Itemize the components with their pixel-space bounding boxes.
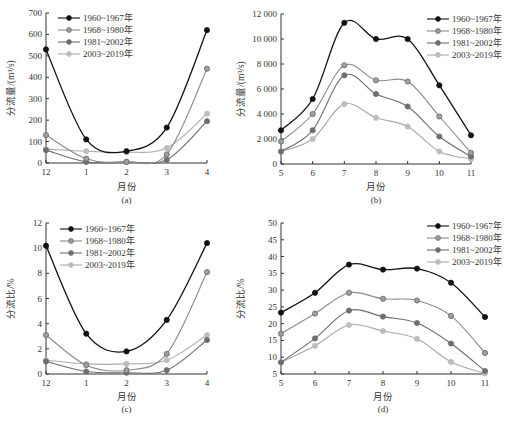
y-tick-label: 15 (268, 335, 278, 345)
y-tick-label: 35 (268, 268, 278, 278)
data-point-marker (380, 296, 385, 301)
legend-label: 1968~1980年 (452, 232, 502, 243)
data-point-marker (84, 156, 89, 161)
data-point-marker (204, 28, 209, 33)
x-axis-label: 月份 (117, 391, 137, 402)
data-point-marker (204, 119, 209, 124)
data-point-marker (84, 363, 89, 368)
data-point-marker (310, 136, 315, 141)
data-point-marker (373, 78, 378, 83)
legend-marker (436, 260, 441, 265)
y-tick-label: 8 000 (257, 59, 278, 69)
data-point-marker (414, 266, 419, 271)
legend-marker (67, 52, 72, 57)
data-point-marker (164, 145, 169, 150)
figure-canvas: 0100200300400500600700121234月份分流量/(m³/s)… (0, 0, 512, 430)
data-point-marker (43, 359, 48, 364)
data-point-marker (437, 134, 442, 139)
legend-marker (69, 227, 74, 232)
data-point-marker (448, 341, 453, 346)
y-tick-label: 6 000 (257, 84, 278, 94)
x-tick-label: 1 (84, 378, 89, 388)
data-point-marker (437, 114, 442, 119)
data-point-marker (204, 332, 209, 337)
data-point-marker (204, 337, 209, 342)
y-axis-label: 分流比/% (235, 278, 246, 319)
data-point-marker (124, 361, 129, 366)
y-tick-label: 5 (273, 369, 278, 379)
y-tick-label: 600 (29, 29, 43, 39)
data-point-marker (342, 101, 347, 106)
y-tick-label: 400 (29, 72, 43, 82)
x-tick-label: 12 (42, 378, 51, 388)
data-point-marker (278, 310, 283, 315)
legend-marker (436, 236, 441, 241)
data-point-marker (346, 322, 351, 327)
legend-label: 2003~2019年 (85, 259, 135, 270)
y-tick-label: 20 (268, 319, 278, 329)
data-point-marker (380, 267, 385, 272)
x-tick-label: 6 (313, 378, 318, 388)
x-tick-label: 5 (279, 168, 284, 178)
y-tick-label: 10 (268, 352, 278, 362)
panel-subtitle: (c) (122, 404, 132, 414)
x-tick-label: 2 (124, 167, 129, 177)
data-point-marker (312, 343, 317, 348)
x-axis-label: 月份 (373, 391, 393, 402)
data-point-marker (43, 133, 48, 138)
x-tick-label: 3 (165, 378, 170, 388)
series-line (46, 121, 207, 163)
x-tick-label: 2 (124, 378, 129, 388)
data-point-marker (84, 149, 89, 154)
y-tick-label: 12 000 (252, 9, 277, 19)
y-tick-label: 500 (29, 51, 43, 61)
legend-label: 1981~2002年 (452, 244, 502, 255)
data-point-marker (373, 115, 378, 120)
x-tick-label: 4 (205, 167, 210, 177)
y-axis-label: 分流量/(m³/s) (5, 60, 17, 116)
legend-label: 1960~1967年 (85, 223, 135, 234)
x-tick-label: 8 (374, 168, 379, 178)
y-tick-label: 100 (29, 137, 43, 147)
data-point-marker (405, 79, 410, 84)
data-point-marker (373, 91, 378, 96)
legend-label: 1981~2002年 (85, 247, 135, 258)
data-point-marker (342, 73, 347, 78)
y-axis-label: 分流比/% (5, 278, 16, 319)
x-axis-label: 月份 (117, 181, 137, 192)
data-point-marker (482, 314, 487, 319)
data-point-marker (204, 111, 209, 116)
panel-subtitle: (a) (122, 195, 132, 205)
data-point-marker (405, 36, 410, 41)
data-point-marker (164, 157, 169, 162)
data-point-marker (405, 104, 410, 109)
y-tick-label: 40 (268, 252, 278, 262)
x-tick-label: 11 (467, 168, 476, 178)
legend-label: 2003~2019年 (83, 48, 133, 59)
data-point-marker (448, 280, 453, 285)
y-tick-label: 700 (29, 8, 43, 18)
data-point-marker (204, 66, 209, 71)
data-point-marker (124, 368, 129, 373)
y-tick-label: 45 (268, 235, 278, 245)
x-tick-label: 9 (405, 168, 410, 178)
x-tick-label: 12 (42, 167, 51, 177)
data-point-marker (310, 96, 315, 101)
data-point-marker (482, 350, 487, 355)
legend-marker (436, 29, 441, 34)
data-point-marker (346, 308, 351, 313)
x-tick-label: 10 (447, 378, 457, 388)
data-point-marker (43, 243, 48, 248)
data-point-marker (124, 349, 129, 354)
legend-label: 1960~1967年 (83, 12, 133, 23)
legend-marker (436, 17, 441, 22)
data-point-marker (414, 320, 419, 325)
data-point-marker (164, 317, 169, 322)
data-point-marker (414, 336, 419, 341)
x-tick-label: 9 (415, 378, 420, 388)
x-tick-label: 10 (435, 168, 445, 178)
legend-marker (69, 251, 74, 256)
data-point-marker (482, 368, 487, 373)
data-point-marker (312, 311, 317, 316)
y-tick-label: 25 (268, 302, 278, 312)
